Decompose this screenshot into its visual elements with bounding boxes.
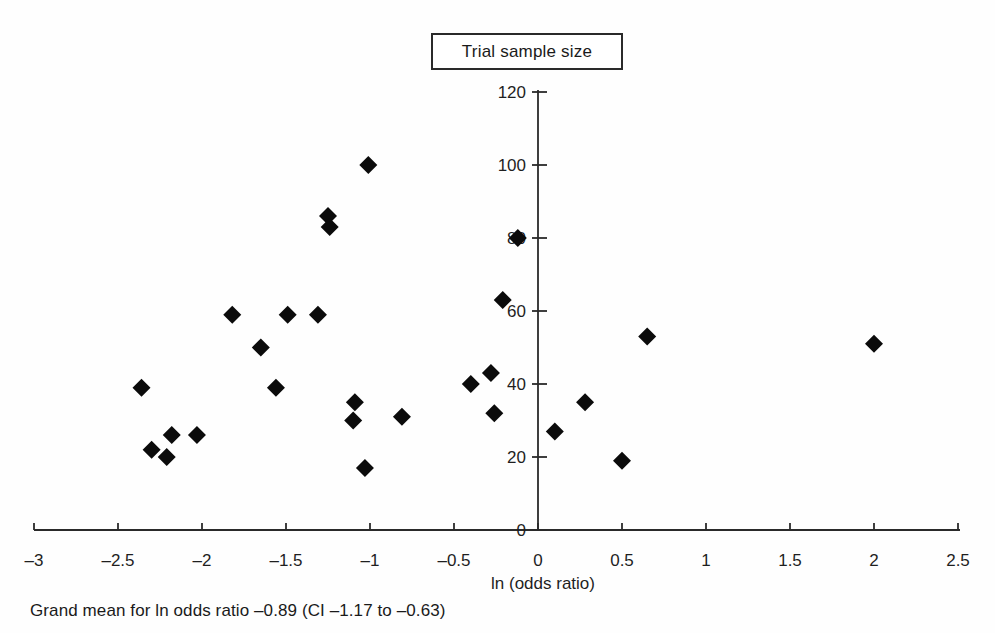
- x-tick-label: 1.5: [778, 551, 802, 570]
- x-tick-label: 2.5: [946, 551, 970, 570]
- data-point-marker: [546, 422, 564, 440]
- data-point-marker: [485, 404, 503, 422]
- data-point-marker: [267, 379, 285, 397]
- chart-title: Trial sample size: [462, 42, 592, 62]
- x-tick-label: –2: [193, 551, 212, 570]
- x-tick-label: –1: [361, 551, 380, 570]
- x-axis-title: ln (odds ratio): [491, 574, 595, 593]
- data-point-marker: [158, 448, 176, 466]
- data-point-marker: [279, 306, 297, 324]
- y-tick-label: 20: [507, 448, 526, 467]
- scatter-plot: –3–2.5–2–1.5–1–0.500.511.522.50204060801…: [0, 0, 995, 633]
- data-point-marker: [346, 393, 364, 411]
- data-point-marker: [223, 306, 241, 324]
- data-point-marker: [321, 218, 339, 236]
- y-tick-label: 0: [517, 521, 526, 540]
- grand-mean-note: Grand mean for ln odds ratio –0.89 (CI –…: [30, 601, 446, 621]
- data-point-marker: [638, 328, 656, 346]
- data-point-marker: [344, 412, 362, 430]
- x-tick-label: –2.5: [101, 551, 134, 570]
- y-tick-label: 60: [507, 302, 526, 321]
- x-tick-label: 0.5: [610, 551, 634, 570]
- data-point-marker: [133, 379, 151, 397]
- data-point-marker: [576, 393, 594, 411]
- x-tick-label: –3: [25, 551, 44, 570]
- x-tick-label: –1.5: [269, 551, 302, 570]
- data-point-marker: [163, 426, 181, 444]
- data-point-marker: [143, 441, 161, 459]
- y-tick-label: 100: [498, 156, 526, 175]
- data-point-marker: [865, 335, 883, 353]
- chart-title-box: Trial sample size: [431, 33, 623, 70]
- x-tick-label: –0.5: [437, 551, 470, 570]
- data-point-marker: [393, 408, 411, 426]
- x-tick-label: 0: [533, 551, 542, 570]
- data-point-marker: [188, 426, 206, 444]
- data-point-marker: [252, 339, 270, 357]
- data-point-marker: [482, 364, 500, 382]
- chart-canvas: –3–2.5–2–1.5–1–0.500.511.522.50204060801…: [0, 0, 995, 633]
- y-tick-label: 120: [498, 83, 526, 102]
- data-point-marker: [613, 452, 631, 470]
- data-point-marker: [309, 306, 327, 324]
- y-tick-label: 40: [507, 375, 526, 394]
- x-tick-label: 2: [869, 551, 878, 570]
- data-point-marker: [462, 375, 480, 393]
- data-point-marker: [356, 459, 374, 477]
- x-tick-label: 1: [701, 551, 710, 570]
- data-point-marker: [359, 156, 377, 174]
